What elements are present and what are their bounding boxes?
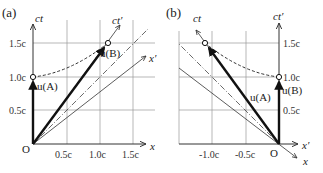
uB-label-a: u(B) (100, 47, 121, 60)
x-tick-10-a: 1.0c (89, 149, 107, 160)
point-a-uA (30, 74, 35, 79)
uA-label-a: u(A) (37, 80, 58, 93)
x-tick-m05-b: -0.5c (235, 149, 256, 160)
panel-b: (b) ct ct′ x′ x O (166, 5, 310, 167)
spacetime-diagrams: (a) ct ct′ x′ x O u(A (0, 0, 323, 173)
x-label-b: x (302, 155, 308, 167)
uA-label-b: u(A) (250, 91, 271, 104)
x-tick-m10-b: -1.0c (199, 149, 220, 160)
x-prime-label-a: x′ (148, 52, 157, 64)
x-tick-15-a: 1.5c (122, 149, 140, 160)
origin-label-a: O (22, 143, 30, 155)
origin-label-b: O (270, 147, 278, 159)
point-b-uA (202, 40, 207, 45)
y-tick-10-a: 1.0c (9, 72, 27, 83)
hyperbola-b (205, 43, 279, 77)
panel-b-label: (b) (166, 5, 181, 20)
y-tick-05-b: 0.5c (283, 105, 301, 116)
hyperbola-a (33, 43, 108, 77)
x-prime-label-b: x′ (301, 139, 310, 151)
y-tick-10-b: 1.0c (283, 72, 301, 83)
panel-a-label: (a) (2, 5, 16, 20)
uB-label-b: u(B) (282, 84, 303, 97)
x-label-a: x (149, 140, 155, 152)
y-tick-15-b: 1.5c (283, 38, 301, 49)
grid-b (179, 31, 279, 144)
x-tick-05-a: 0.5c (55, 149, 73, 160)
vector-uB-a (33, 48, 104, 144)
point-b-uB (276, 74, 281, 79)
point-a-uB (105, 40, 110, 45)
panel-a: (a) ct ct′ x′ x O u(A (2, 5, 157, 160)
y-tick-15-a: 1.5c (9, 38, 27, 49)
ct-prime-label-a: ct′ (112, 14, 123, 26)
ct-prime-label-b: ct′ (273, 10, 284, 22)
ct-label-b: ct (193, 12, 202, 24)
ct-label-a: ct (35, 12, 44, 24)
y-tick-05-a: 0.5c (9, 105, 27, 116)
